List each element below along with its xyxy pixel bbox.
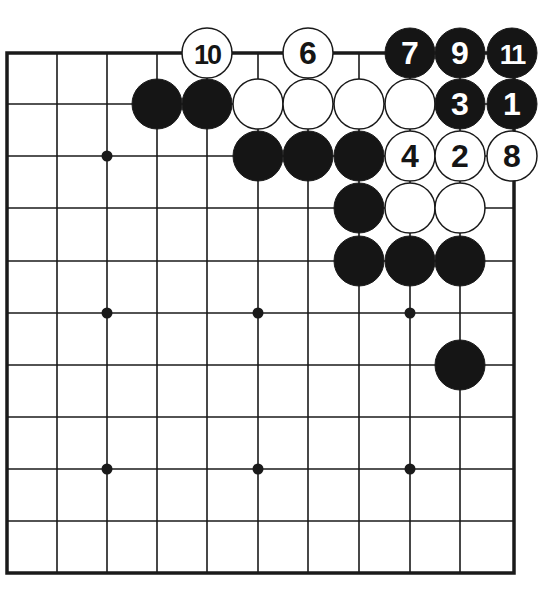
move-number-label: 10 (194, 40, 221, 70)
white-stone-move-4: 4 (385, 131, 435, 181)
black-stone (385, 236, 435, 286)
white-stone-move-6: 6 (283, 28, 333, 78)
white-stone (233, 79, 283, 129)
star-point-icon (102, 464, 113, 475)
move-number-label: 6 (299, 35, 317, 71)
black-stone (435, 340, 485, 390)
white-stone (385, 79, 435, 129)
white-stone (334, 79, 384, 129)
move-number-label: 3 (451, 86, 469, 122)
black-stone-move-1: 1 (487, 79, 537, 129)
black-stone (334, 183, 384, 233)
star-point-icon (253, 464, 264, 475)
star-point-icon (253, 308, 264, 319)
star-point-icon (102, 151, 113, 162)
black-stone-icon (334, 131, 384, 181)
black-stone (233, 131, 283, 181)
black-stone-move-11: 11 (487, 28, 537, 78)
white-stone (435, 183, 485, 233)
move-number-label: 1 (503, 86, 521, 122)
move-number-label: 7 (401, 35, 419, 71)
black-stone-move-3: 3 (435, 79, 485, 129)
black-stone (334, 236, 384, 286)
move-number-label: 2 (451, 138, 469, 174)
white-stone-icon (334, 79, 384, 129)
black-stone-icon (385, 236, 435, 286)
white-stone-icon (435, 183, 485, 233)
black-stone-icon (132, 79, 182, 129)
move-number-label: 8 (503, 138, 521, 174)
black-stone-icon (435, 340, 485, 390)
black-stone-move-9: 9 (435, 28, 485, 78)
go-board-diagram: 106791131428 (0, 0, 557, 612)
black-stone (283, 131, 333, 181)
white-stone-icon (233, 79, 283, 129)
move-number-label: 11 (500, 40, 527, 70)
black-stone-move-7: 7 (385, 28, 435, 78)
move-number-label: 4 (401, 138, 419, 174)
white-stone-icon (283, 79, 333, 129)
black-stone-icon (233, 131, 283, 181)
white-stone-icon (385, 79, 435, 129)
move-number-label: 9 (451, 35, 469, 71)
white-stone-icon (385, 183, 435, 233)
black-stone (435, 236, 485, 286)
star-point-icon (102, 308, 113, 319)
star-point-icon (405, 464, 416, 475)
black-stone-icon (334, 236, 384, 286)
black-stone-icon (283, 131, 333, 181)
black-stone-icon (182, 79, 232, 129)
black-stone-icon (334, 183, 384, 233)
white-stone-move-10: 10 (182, 28, 232, 78)
white-stone-move-2: 2 (435, 131, 485, 181)
white-stone (283, 79, 333, 129)
black-stone-icon (435, 236, 485, 286)
white-stone-move-8: 8 (487, 131, 537, 181)
black-stone (132, 79, 182, 129)
black-stone (182, 79, 232, 129)
star-point-icon (405, 308, 416, 319)
black-stone (334, 131, 384, 181)
white-stone (385, 183, 435, 233)
